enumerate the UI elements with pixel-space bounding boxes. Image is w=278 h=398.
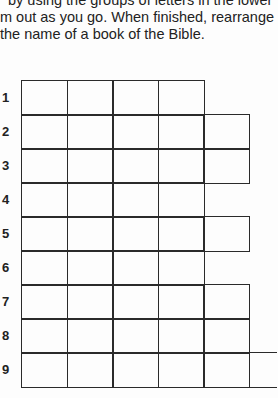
row-number-label: 1: [2, 90, 14, 105]
letter-cell[interactable]: [112, 318, 159, 354]
letter-cell[interactable]: [67, 216, 114, 252]
letter-cell[interactable]: [112, 352, 159, 388]
letter-cell[interactable]: [67, 250, 114, 286]
letter-cell[interactable]: [158, 80, 205, 116]
letter-cell[interactable]: [158, 250, 205, 286]
letter-cell[interactable]: [249, 352, 278, 388]
letter-cell[interactable]: [67, 352, 114, 388]
letter-cell[interactable]: [158, 284, 205, 320]
letter-cell[interactable]: [158, 182, 205, 218]
letter-cell[interactable]: [158, 352, 205, 388]
letter-cell[interactable]: [158, 216, 205, 252]
letter-cell[interactable]: [67, 284, 114, 320]
letter-cell[interactable]: [112, 148, 159, 184]
letter-cell[interactable]: [203, 114, 250, 150]
letter-cell[interactable]: [21, 284, 68, 320]
letter-cell[interactable]: [67, 114, 114, 150]
letter-cell[interactable]: [158, 318, 205, 354]
letter-cell[interactable]: [158, 148, 205, 184]
row-number-label: 9: [2, 362, 14, 377]
letter-cell[interactable]: [21, 318, 68, 354]
instruction-line-1: by using the groups of letters in the lo…: [0, 0, 277, 9]
row-number-label: 4: [2, 192, 14, 207]
letter-cell[interactable]: [21, 216, 68, 252]
letter-cell[interactable]: [67, 148, 114, 184]
letter-cell[interactable]: [112, 216, 159, 252]
letter-cell[interactable]: [203, 284, 250, 320]
row-number-label: 8: [2, 328, 14, 343]
letter-cell[interactable]: [21, 250, 68, 286]
letter-cell[interactable]: [21, 352, 68, 388]
letter-cell[interactable]: [203, 352, 250, 388]
letter-cell[interactable]: [67, 182, 114, 218]
row-number-label: 2: [2, 124, 14, 139]
letter-cell[interactable]: [112, 114, 159, 150]
row-number-label: 5: [2, 226, 14, 241]
letter-cell[interactable]: [203, 148, 250, 184]
letter-cell[interactable]: [112, 80, 159, 116]
row-number-label: 7: [2, 294, 14, 309]
letter-cell[interactable]: [158, 114, 205, 150]
letter-cell[interactable]: [112, 284, 159, 320]
letter-cell[interactable]: [21, 148, 68, 184]
instructions-text: by using the groups of letters in the lo…: [0, 0, 277, 43]
letter-cell[interactable]: [67, 318, 114, 354]
instruction-line-3: the name of a book of the Bible.: [0, 26, 277, 43]
letter-cell[interactable]: [67, 80, 114, 116]
letter-cell[interactable]: [21, 80, 68, 116]
instruction-line-2: m out as you go. When finished, rearrang…: [0, 9, 277, 26]
letter-cell[interactable]: [112, 182, 159, 218]
row-number-label: 3: [2, 158, 14, 173]
row-number-label: 6: [2, 260, 14, 275]
letter-cell[interactable]: [112, 250, 159, 286]
letter-cell[interactable]: [21, 114, 68, 150]
letter-cell[interactable]: [203, 318, 250, 354]
letter-cell[interactable]: [21, 182, 68, 218]
letter-cell[interactable]: [203, 216, 250, 252]
